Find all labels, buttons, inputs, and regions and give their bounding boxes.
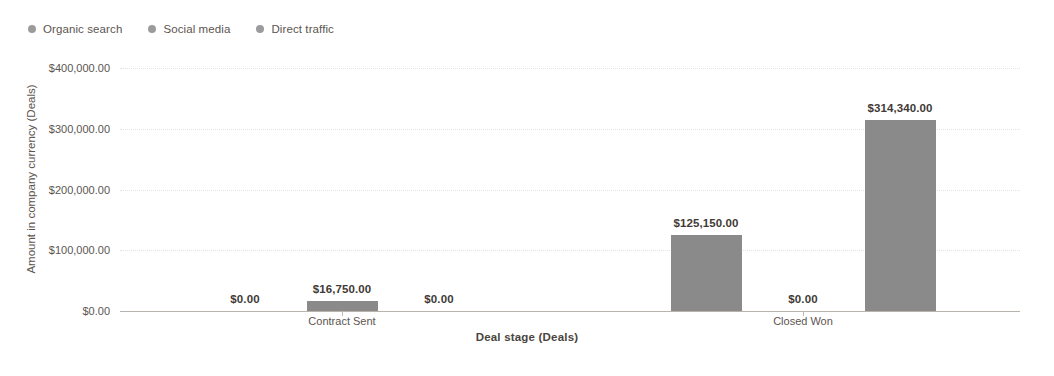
y-axis-tick-label: $100,000.00 — [6, 244, 110, 256]
y-axis-tick-label: $200,000.00 — [6, 184, 110, 196]
legend-item-social-media[interactable]: Social media — [148, 23, 230, 35]
bar-value-label: $125,150.00 — [673, 217, 738, 229]
bar[interactable] — [307, 301, 378, 311]
legend-dot-icon — [148, 25, 156, 33]
y-axis-tick-label: $400,000.00 — [6, 62, 110, 74]
legend-item-label: Social media — [163, 23, 230, 35]
bar-value-label: $16,750.00 — [313, 283, 372, 295]
legend-item-organic-search[interactable]: Organic search — [28, 23, 122, 35]
y-axis-tick-label: $300,000.00 — [6, 123, 110, 135]
legend-item-label: Direct traffic — [271, 23, 334, 35]
bar[interactable] — [865, 120, 936, 311]
bar-value-label: $0.00 — [788, 293, 817, 305]
legend-dot-icon — [256, 25, 264, 33]
x-axis-category-label: Closed Won — [773, 315, 833, 327]
bar-value-label: $314,340.00 — [867, 102, 932, 114]
bar-value-label: $0.00 — [424, 293, 453, 305]
legend-dot-icon — [28, 25, 36, 33]
bar[interactable] — [671, 235, 742, 311]
y-axis-tick-label: $0.00 — [6, 305, 110, 317]
x-axis-line — [120, 311, 1020, 312]
bar-value-label: $0.00 — [230, 293, 259, 305]
legend-item-label: Organic search — [43, 23, 122, 35]
chart-legend: Organic search Social media Direct traff… — [28, 20, 334, 38]
x-axis-title: Deal stage (Deals) — [0, 331, 1054, 343]
y-axis-tick-labels: $0.00$100,000.00$200,000.00$300,000.00$4… — [6, 68, 110, 311]
legend-item-direct-traffic[interactable]: Direct traffic — [256, 23, 334, 35]
gridline — [120, 68, 1020, 69]
bar-chart: Organic search Social media Direct traff… — [0, 0, 1054, 376]
x-axis-category-label: Contract Sent — [308, 315, 375, 327]
